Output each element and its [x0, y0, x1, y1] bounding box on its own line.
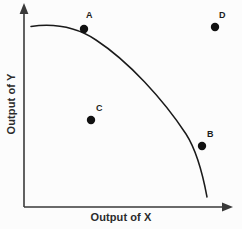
data-point-b[interactable] [198, 142, 206, 150]
data-point-a[interactable] [80, 25, 88, 33]
data-point-d[interactable] [211, 23, 219, 31]
data-point-label-c: C [96, 104, 103, 113]
data-point-label-d: D [219, 11, 226, 20]
y-axis-title-container: Output of Y [0, 0, 22, 207]
data-point-label-b: B [207, 130, 214, 139]
y-axis-title: Output of Y [5, 73, 17, 134]
x-axis-title: Output of X [0, 211, 242, 223]
data-point-label-a: A [86, 11, 93, 20]
plot-area [0, 0, 242, 229]
data-point-c[interactable] [87, 116, 95, 124]
ppf-curve [31, 25, 207, 197]
ppf-chart-figure: A B C D Output of X Output of Y [0, 0, 242, 229]
